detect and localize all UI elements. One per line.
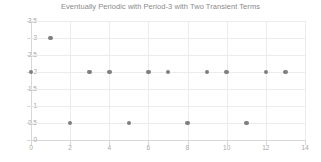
x-axis-tick-label: 4 [99,145,119,152]
data-point [224,70,229,75]
data-point [68,121,73,126]
gridline-horizontal [31,38,305,39]
data-point [48,36,53,41]
gridline-horizontal [31,89,305,90]
x-axis-line [31,140,306,141]
data-point [283,70,288,75]
x-axis-tick-mark [31,141,32,145]
x-axis-tick-label: 2 [60,145,80,152]
x-axis-tick-mark [305,141,306,145]
data-point [127,121,132,126]
x-axis-tick-label: 6 [138,145,158,152]
gridline-horizontal [31,123,305,124]
gridline-vertical [305,21,306,140]
scatter-chart: Eventually Periodic with Period-3 with T… [0,0,321,162]
x-axis-tick-label: 8 [178,145,198,152]
data-point [146,70,151,75]
gridline-horizontal [31,106,305,107]
x-axis-tick-mark [227,141,228,145]
x-axis-tick-mark [148,141,149,145]
x-axis-tick-mark [266,141,267,145]
data-point [185,121,190,126]
gridline-horizontal [31,55,305,56]
x-axis-tick-label: 0 [21,145,41,152]
gridline-horizontal [31,21,305,22]
data-point [87,70,92,75]
x-axis-tick-mark [188,141,189,145]
x-axis-tick-mark [70,141,71,145]
data-point [264,70,269,75]
plot-area [31,21,305,140]
x-axis-tick-mark [109,141,110,145]
data-point [166,70,171,75]
data-point [29,70,34,75]
x-axis-tick-label: 14 [295,145,315,152]
x-axis-tick-label: 10 [217,145,237,152]
data-point [205,70,210,75]
x-axis-tick-label: 12 [256,145,276,152]
data-point [107,70,112,75]
chart-title: Eventually Periodic with Period-3 with T… [0,2,321,11]
data-point [244,121,249,126]
